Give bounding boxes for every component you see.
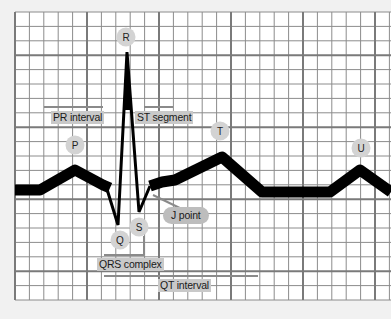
- r-wave-marker: R: [117, 28, 136, 47]
- st-segment-label: ST segment: [135, 111, 193, 124]
- pr-interval-label: PR interval: [51, 111, 104, 124]
- qt-interval-label: QT interval: [158, 279, 211, 292]
- qrs-complex-label: QRS complex: [97, 258, 164, 271]
- ecg-diagram: R P T U Q S PR interval ST segment J poi…: [0, 0, 391, 319]
- t-wave-marker: T: [211, 122, 230, 141]
- ecg-grid-and-trace: [0, 0, 391, 319]
- s-wave-marker: S: [130, 218, 149, 237]
- p-wave-marker: P: [66, 136, 85, 155]
- q-wave-marker: Q: [111, 231, 130, 250]
- j-point-label: J point: [163, 207, 209, 224]
- u-wave-marker: U: [352, 139, 371, 158]
